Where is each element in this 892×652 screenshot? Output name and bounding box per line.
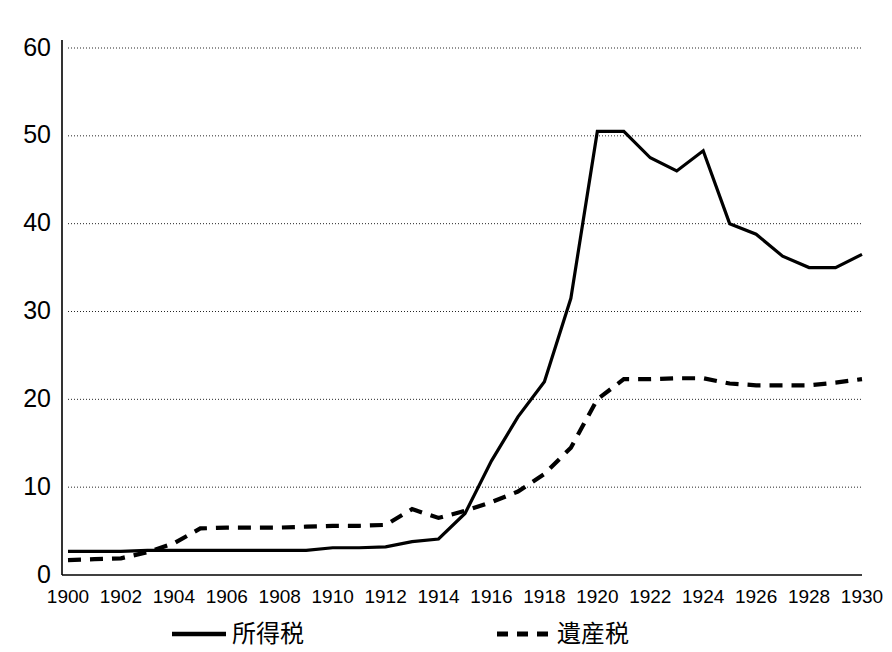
x-tick-label: 1918: [523, 586, 565, 607]
x-tick-label: 1912: [364, 586, 406, 607]
y-tick-label: 60: [23, 33, 51, 61]
x-tick-label: 1904: [153, 586, 196, 607]
x-tick-label: 1922: [629, 586, 671, 607]
gridlines-group: [68, 48, 862, 487]
legend: 所得税遺産税: [172, 620, 629, 648]
x-tick-label: 1926: [735, 586, 777, 607]
series-line-1: [68, 131, 862, 551]
line-chart: 0102030405060 19001902190419061908191019…: [0, 0, 892, 652]
x-axis-tick-labels: 1900190219041906190819101912191419161918…: [47, 586, 883, 607]
y-tick-label: 50: [23, 120, 51, 148]
axes-group: [62, 40, 862, 575]
legend-label-1: 所得税: [232, 620, 304, 648]
series-line-2: [68, 378, 862, 560]
x-tick-label: 1928: [788, 586, 830, 607]
chart-page: 0102030405060 19001902190419061908191019…: [0, 0, 892, 652]
legend-label-2: 遺産税: [557, 620, 629, 648]
x-tick-label: 1910: [312, 586, 354, 607]
x-tick-label: 1902: [100, 586, 142, 607]
y-tick-label: 40: [23, 208, 51, 236]
x-tick-label: 1930: [841, 586, 883, 607]
y-axis-tick-labels: 0102030405060: [23, 33, 51, 588]
y-tick-label: 10: [23, 472, 51, 500]
x-tick-label: 1920: [576, 586, 618, 607]
y-tick-label: 0: [37, 560, 51, 588]
x-tick-label: 1906: [206, 586, 248, 607]
x-tick-label: 1900: [47, 586, 89, 607]
x-tick-label: 1908: [259, 586, 301, 607]
y-tick-label: 30: [23, 296, 51, 324]
x-tick-label: 1916: [470, 586, 512, 607]
y-tick-label: 20: [23, 384, 51, 412]
x-tick-label: 1924: [682, 586, 725, 607]
series-group: [68, 131, 862, 560]
x-tick-label: 1914: [417, 586, 460, 607]
